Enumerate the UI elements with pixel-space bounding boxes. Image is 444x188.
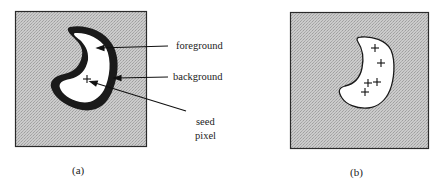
- panel-b: (b): [291, 13, 429, 180]
- figure-canvas: foreground background seed pixel (a): [0, 0, 444, 188]
- panel-a: foreground background seed pixel (a): [16, 12, 224, 178]
- label-seed: seed: [196, 116, 215, 127]
- label-pixel: pixel: [195, 130, 216, 141]
- label-background: background: [173, 71, 223, 82]
- caption-a: (a): [72, 164, 85, 177]
- caption-b: (b): [350, 166, 363, 179]
- label-foreground: foreground: [176, 40, 223, 51]
